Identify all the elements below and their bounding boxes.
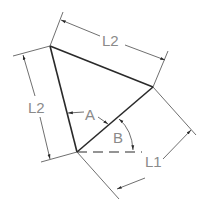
- extension-line: [13, 46, 50, 56]
- edge-top: [50, 46, 153, 87]
- angle-a-arrow: [68, 112, 84, 113]
- label-left-l2: L2: [28, 99, 45, 116]
- label-angle-b: B: [113, 129, 123, 146]
- edge-left: [50, 46, 77, 152]
- extension-line: [77, 152, 119, 199]
- dimension-line: [23, 55, 35, 96]
- dimension-left-l2: L2: [13, 46, 77, 162]
- label-l1: L1: [145, 153, 162, 170]
- dimension-line: [40, 117, 50, 159]
- label-angle-a: A: [85, 106, 95, 123]
- angle-b: B: [113, 119, 133, 150]
- dimension-line: [125, 45, 165, 60]
- extension-line: [50, 12, 63, 46]
- dimension-l1: L1: [77, 87, 196, 199]
- triangle-dimension-diagram: L2 L2 L1 A B: [0, 0, 208, 211]
- label-top-l2: L2: [102, 32, 119, 49]
- extension-line: [41, 152, 77, 162]
- extension-line: [153, 87, 196, 135]
- angle-a: A: [68, 106, 108, 124]
- dimension-line: [163, 130, 191, 159]
- triangle: [50, 46, 153, 152]
- angle-a-arrow: [98, 117, 108, 124]
- dimension-line: [61, 20, 100, 36]
- dimension-top-l2: L2: [50, 12, 168, 87]
- dimension-line: [117, 178, 145, 189]
